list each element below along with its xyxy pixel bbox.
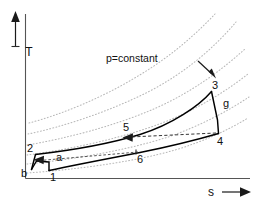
process-3-g-4 (212, 92, 219, 134)
y-axis-arrow (11, 11, 20, 47)
state-label-2: 2 (27, 142, 33, 154)
ts-diagram-figure: T s p=constant 2 b a 1 3 g 4 5 6 (0, 0, 258, 206)
x-axis-label: s (208, 185, 214, 199)
state-label-1: 1 (50, 171, 56, 183)
isobar-note-pointer (198, 61, 216, 79)
process-4-6-1 (49, 134, 219, 171)
state-label-5: 5 (123, 121, 129, 133)
state-label-6: 6 (137, 153, 143, 165)
diagram-canvas: T s p=constant 2 b a 1 3 g 4 5 6 (0, 0, 258, 206)
state-label-g: g (223, 97, 229, 109)
y-axis-label: T (25, 45, 33, 59)
isobar-curve-6 (29, 14, 215, 123)
x-axis-arrow (222, 187, 251, 196)
state-label-b: b (21, 167, 27, 179)
isobar-curves-group (27, 14, 249, 173)
isobar-note-label: p=constant (106, 52, 158, 64)
state-label-4: 4 (217, 135, 223, 147)
state-label-a: a (56, 151, 63, 163)
state-label-3: 3 (212, 79, 218, 91)
